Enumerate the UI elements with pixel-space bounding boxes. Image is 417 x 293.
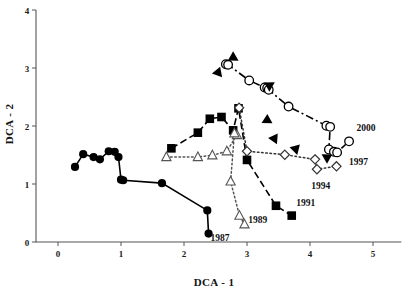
marker-open-triangle [226,176,235,185]
x-tick-label: 0 [56,249,61,259]
dca-ordination-chart: 01234501234 198719891991199419972000 DCA… [0,0,417,293]
marker-filled-circle [79,150,87,158]
y-tick-label: 4 [25,6,30,16]
year-label: 1989 [248,215,267,225]
marker-filled-square [206,114,215,123]
marker-filled-circle [158,179,166,187]
marker-open-triangle [222,146,231,155]
marker-open-diamond [312,165,321,174]
marker-filled-square [167,144,176,153]
series-filled-circle-trajectory [71,147,213,238]
year-label: 1987 [210,233,229,243]
marker-open-circle [245,76,254,85]
year-label: 1994 [311,181,330,191]
x-tick-label: 1 [119,249,124,259]
marker-filled-square [272,201,281,210]
marker-open-diamond [280,150,289,159]
series-line [239,108,336,169]
marker-filled-square [194,128,203,137]
series-line [75,151,209,233]
y-tick-label: 3 [25,64,30,74]
marker-filled-square [243,156,252,165]
x-tick-label: 4 [308,249,313,259]
chart-canvas: 01234501234 198719891991199419972000 DCA… [0,0,417,293]
marker-open-triangle [208,150,217,159]
x-tick-label: 3 [245,249,250,259]
marker-open-circle [333,148,342,157]
series-filled-square-trajectory [167,104,296,220]
marker-open-triangle [235,211,244,220]
marker-open-diamond [332,162,341,171]
marker-filled-triangle-down [268,130,282,144]
x-tick-label: 5 [371,249,376,259]
y-axis-title: DCA - 2 [3,104,15,145]
year-label: 1991 [296,198,315,208]
marker-filled-circle [203,206,211,214]
axis-lines [36,10,401,242]
marker-open-triangle [162,152,171,161]
y-tick-label: 1 [25,180,30,190]
marker-open-circle [326,123,335,132]
marker-filled-circle [119,176,127,184]
marker-filled-circle [71,163,79,171]
marker-open-circle [345,137,354,146]
marker-filled-circle [114,153,122,161]
year-label: 1997 [349,157,368,167]
marker-open-circle [224,61,233,70]
marker-open-diamond [242,147,251,156]
marker-filled-circle [96,155,104,163]
axes: 01234501234 [25,6,402,260]
marker-filled-square [287,211,296,220]
y-tick-label: 2 [25,122,30,132]
x-tick-label: 2 [182,249,187,259]
data-series [71,51,353,237]
x-axis-title: DCA - 1 [194,276,235,288]
marker-filled-triangle-down [262,114,273,123]
marker-filled-square [217,113,226,122]
marker-filled-triangle-down [290,141,304,155]
marker-open-circle [284,102,293,111]
marker-open-diamond [310,155,319,164]
y-tick-label: 0 [25,238,30,248]
year-label: 2000 [357,123,376,133]
